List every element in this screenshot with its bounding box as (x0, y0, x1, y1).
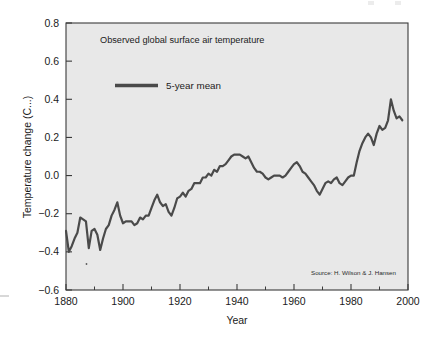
x-tick-label-1940: 1940 (225, 295, 249, 307)
y-axis-title: Temperature change (C...) (21, 96, 33, 219)
x-tick-label-2000: 2000 (396, 295, 420, 307)
temperature-line-chart: −0.6−0.4−0.20.00.20.40.60.8 188019001920… (0, 0, 425, 340)
crop-edge-mark-top-a (368, 1, 374, 5)
y-tick-label-0.0: 0.0 (44, 169, 59, 181)
x-tick-label-1880: 1880 (54, 295, 78, 307)
source-credit-note: Source: H. Wilson & J. Hansen (311, 269, 396, 276)
y-tick-label--0.6: −0.6 (38, 284, 59, 296)
x-tick-label-1960: 1960 (282, 295, 306, 307)
legend-label-5-year-mean: 5-year mean (166, 80, 221, 91)
y-tick-label--0.4: −0.4 (38, 245, 59, 257)
x-axis-title: Year (226, 314, 248, 326)
x-tick-label-1920: 1920 (168, 295, 192, 307)
y-tick-label-0.4: 0.4 (44, 93, 59, 105)
x-tick-label-1900: 1900 (111, 295, 135, 307)
crop-edge-mark-left (0, 295, 9, 297)
y-tick-label-0.8: 0.8 (44, 17, 59, 29)
crop-edge-mark-top-b (395, 1, 401, 5)
y-tick-label-0.6: 0.6 (44, 55, 59, 67)
y-tick-label--0.2: −0.2 (38, 207, 59, 219)
plot-area-background (66, 23, 408, 290)
scan-artifact-speck (86, 263, 88, 265)
x-tick-label-1980: 1980 (339, 295, 363, 307)
figure-container: −0.6−0.4−0.20.00.20.40.60.8 188019001920… (0, 0, 425, 340)
chart-title: Observed global surface air temperature (100, 35, 264, 45)
y-tick-label-0.2: 0.2 (44, 131, 59, 143)
